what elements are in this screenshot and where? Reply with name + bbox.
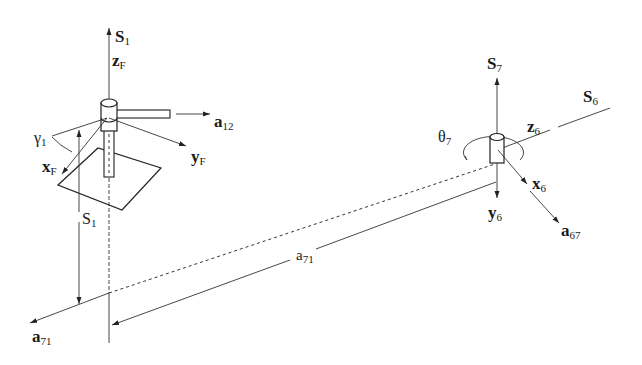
label-gamma1: γ1 [33,129,47,148]
a71-axis-hidden [109,164,495,293]
joint-rod [104,125,114,177]
label-s6: S6 [583,87,598,107]
gamma1-reference-line [52,118,107,136]
z6-axis [497,130,550,150]
label-z6: z6 [527,117,541,137]
label-a71-axis: a71 [32,327,52,347]
label-a12: a12 [214,112,234,132]
label-a71-dimension: a71 [296,247,314,265]
label-y6: y6 [488,203,503,223]
link-a12-arm [114,110,170,118]
label-yF: yF [191,147,206,167]
label-x6: x6 [532,174,547,194]
label-s7: S7 [487,54,502,74]
label-xF: xF [42,157,57,177]
label-theta7: θ7 [438,128,452,147]
a71-axis-arrow [30,293,109,323]
a71-dimension-left [112,260,290,325]
s6-axis [558,108,610,127]
gamma1-arc [52,137,72,152]
xF-axis-arrow [62,118,107,174]
cylinder-top [101,99,117,107]
right-cylinder-top [490,134,504,141]
a71-dimension-right [316,182,496,249]
label-zF: zF [112,51,126,71]
diagram-svg: S1 zF a12 γ1 xF yF S1 a71 a71 S7 S6 z6 θ… [0,0,642,365]
label-a67: a67 [561,221,581,241]
label-s1-dimension: S1 [82,210,96,229]
yF-axis-arrow [109,118,186,146]
left-joint-group [52,28,210,343]
label-s1-top: S1 [115,27,130,47]
a71-link-group [30,164,496,325]
mechanism-diagram: S1 zF a12 γ1 xF yF S1 a71 a71 S7 S6 z6 θ… [0,0,642,365]
a67-arrow [530,191,559,223]
